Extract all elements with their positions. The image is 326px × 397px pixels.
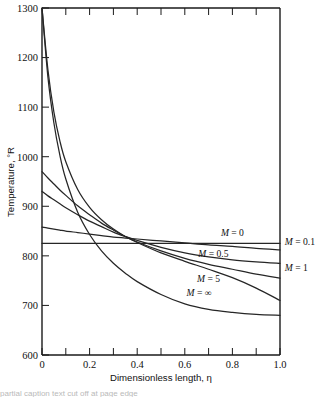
series-label-5: M = ∞ bbox=[186, 287, 212, 298]
temperature-vs-dimensionless-length-chart: 1300 1200 1100 1000 900 800 700 600 0 0.… bbox=[0, 0, 326, 397]
chart-figure: 1300 1200 1100 1000 900 800 700 600 0 0.… bbox=[0, 0, 326, 397]
series-label-2: M = 0.5 bbox=[197, 248, 228, 259]
x-tick-label: 0.4 bbox=[131, 359, 145, 370]
chart-background bbox=[0, 0, 326, 397]
x-tick-label: 0.8 bbox=[226, 359, 239, 370]
x-tick-label: 0 bbox=[39, 359, 44, 370]
series-label-1: M = 0.1 bbox=[284, 236, 315, 247]
x-tick-label: 0.6 bbox=[178, 359, 191, 370]
series-label-4: M = 5 bbox=[196, 273, 220, 284]
y-tick-label: 900 bbox=[22, 201, 38, 212]
y-tick-label: 600 bbox=[22, 350, 38, 361]
y-tick-label: 1200 bbox=[17, 52, 38, 63]
y-tick-label: 1100 bbox=[17, 102, 38, 113]
y-axis-title: Temperature, °R bbox=[5, 147, 16, 217]
y-tick-label: 800 bbox=[22, 251, 38, 262]
series-label-3: M = 1 bbox=[284, 262, 308, 273]
x-axis-title: Dimensionless length, η bbox=[110, 372, 212, 383]
x-tick-label: 1.0 bbox=[273, 359, 286, 370]
series-label-0: M = 0 bbox=[220, 227, 244, 238]
y-tick-label: 1000 bbox=[17, 152, 38, 163]
y-tick-label: 1300 bbox=[17, 3, 38, 14]
x-tick-label: 0.2 bbox=[83, 359, 96, 370]
y-tick-label: 700 bbox=[22, 300, 38, 311]
figure-caption-strip: partial caption text cut off at page edg… bbox=[0, 389, 326, 397]
figure-caption: partial caption text cut off at page edg… bbox=[0, 389, 326, 397]
